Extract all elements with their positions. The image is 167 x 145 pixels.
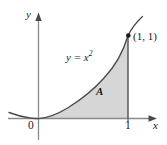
graph-canvas: [0, 0, 167, 145]
math-figure-parabola-area: y x 0 1 y = x2 (1, 1) A: [0, 0, 167, 145]
y-axis-arrowhead: [35, 13, 41, 22]
x-axis-label: x: [153, 120, 158, 131]
curve-equation-label: y = x2: [66, 50, 92, 63]
y-axis-label: y: [26, 9, 31, 20]
area-region-label: A: [96, 86, 103, 97]
point-marker-1-1: [126, 33, 131, 38]
shaded-region-A: [39, 35, 129, 119]
origin-label: 0: [28, 120, 34, 132]
curve-equation-lhs: y =: [66, 51, 81, 63]
x-tick-label-1: 1: [125, 120, 131, 132]
curve-equation-exponent: 2: [89, 49, 93, 58]
point-coordinate-label: (1, 1): [133, 31, 157, 42]
